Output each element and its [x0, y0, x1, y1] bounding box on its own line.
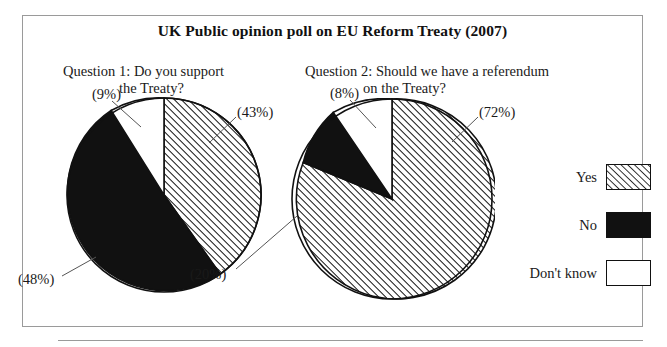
- question-2-line1: Should we have a referendum: [376, 63, 549, 79]
- pie-2-slices: [296, 99, 495, 299]
- legend: Yes No Don't know: [521, 164, 651, 286]
- pie-1-svg: [66, 97, 264, 295]
- legend-swatch-hatch-icon: [606, 164, 651, 190]
- question-1-caption: Question 1: Do you support the Treaty?: [63, 63, 224, 97]
- legend-label-dont-know: Don't know: [530, 265, 597, 282]
- legend-swatch-solid-icon: [606, 212, 651, 238]
- legend-label-no: No: [579, 217, 597, 234]
- legend-item-yes: Yes: [521, 164, 651, 190]
- bottom-divider: [58, 340, 643, 341]
- page-title: UK Public opinion poll on EU Reform Trea…: [23, 22, 642, 40]
- question-2-label: Question 2:: [305, 63, 372, 79]
- question-1-line1: Do you support: [134, 63, 224, 79]
- legend-swatch-empty-icon: [606, 260, 651, 286]
- callout-pie2-yes: (72%): [479, 104, 515, 121]
- question-1-label: Question 1:: [63, 63, 130, 79]
- callout-pie1-dont-know: (9%): [92, 86, 121, 103]
- callout-pie2-no: (20%): [190, 266, 226, 283]
- question-1-line2: the Treaty?: [63, 80, 224, 97]
- callout-pie2-dont-know: (8%): [330, 85, 359, 102]
- legend-label-yes: Yes: [576, 169, 597, 186]
- callout-pie1-no: (48%): [18, 271, 54, 288]
- pie-chart-question-2: [291, 98, 495, 302]
- pie-chart-question-1: [66, 97, 264, 295]
- callout-pie1-yes: (43%): [237, 104, 273, 121]
- legend-item-no: No: [521, 212, 651, 238]
- legend-item-dont-know: Don't know: [521, 260, 651, 286]
- pie-2-svg: [291, 98, 495, 302]
